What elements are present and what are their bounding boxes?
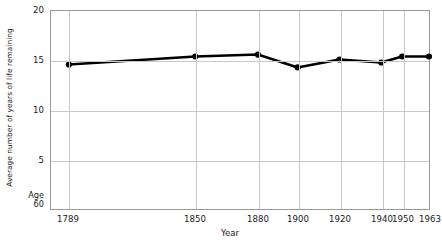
- age-baseline-label: Age60: [28, 191, 44, 210]
- x-tick-label: 1850: [184, 214, 206, 224]
- data-point-marker: [426, 53, 432, 59]
- x-tick-label: 1940: [371, 214, 393, 224]
- y-axis-title-text: Average number of years of life remainin…: [5, 28, 14, 187]
- age-baseline-label-line2: 60: [28, 200, 44, 209]
- gridline-vertical: [259, 11, 260, 209]
- x-tick-label: 1789: [57, 214, 79, 224]
- gridline-horizontal: [51, 161, 429, 162]
- gridline-vertical: [341, 11, 342, 209]
- data-point-marker: [255, 51, 261, 57]
- line-series: [51, 11, 429, 209]
- y-tick-label: 20: [33, 5, 44, 15]
- gridline-vertical: [299, 11, 300, 209]
- y-tick-label: 5: [39, 155, 44, 165]
- y-tick-label: 10: [33, 105, 44, 115]
- gridline-vertical: [404, 11, 405, 209]
- gridline-vertical: [383, 11, 384, 209]
- gridline-horizontal: [51, 111, 429, 112]
- x-tick-label: 1880: [247, 214, 269, 224]
- y-tick-label: 15: [33, 55, 44, 65]
- y-axis-title: Average number of years of life remainin…: [0, 0, 18, 215]
- plot-area: [50, 10, 430, 210]
- gridline-vertical: [69, 11, 70, 209]
- gridline-vertical: [196, 11, 197, 209]
- x-tick-label: 1963: [419, 214, 441, 224]
- chart-screenshot: Average number of years of life remainin…: [0, 0, 442, 243]
- x-axis-title: Year: [221, 228, 239, 238]
- y-axis-tick-labels: 2015105Age60: [18, 0, 46, 215]
- gridline-horizontal: [51, 61, 429, 62]
- x-tick-label: 1920: [329, 214, 351, 224]
- x-tick-label: 1950: [392, 214, 414, 224]
- x-tick-label: 1900: [287, 214, 309, 224]
